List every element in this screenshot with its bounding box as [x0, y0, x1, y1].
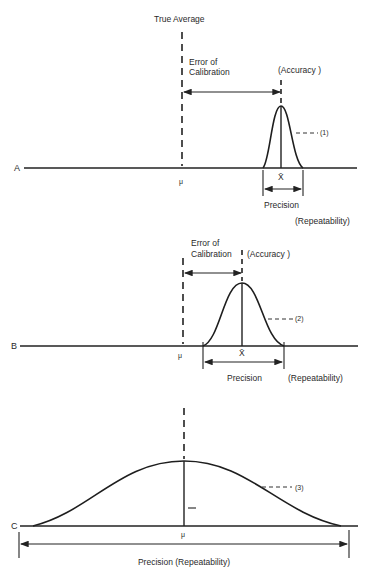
error-of-calibration-label-b-line2: Calibration: [191, 249, 232, 259]
panel-a: Error of Calibration (Accuracy ) (1) A μ…: [14, 32, 357, 226]
error-of-calibration-label-b-line1: Error of: [191, 238, 220, 248]
error-of-calibration-label-a-line1: Error of: [189, 57, 218, 67]
precision-label-a: Precision: [264, 200, 299, 210]
true-average-title: True Average: [154, 14, 205, 24]
accuracy-precision-diagram: True Average Error of Calibration (Accur…: [0, 0, 373, 577]
distribution-curve-1: [263, 106, 303, 168]
error-of-calibration-label-a-line2: Calibration: [189, 67, 230, 77]
mu-label-b: μ: [178, 352, 182, 360]
axis-letter-a: A: [14, 163, 20, 173]
precision-label-b: Precision: [227, 373, 262, 383]
panel-b: Error of Calibration (Accuracy ) (2) B μ…: [11, 238, 358, 383]
distribution-curve-2: [203, 283, 284, 346]
x-bar-label-a: X̄: [278, 172, 284, 182]
curve-2-label: (2): [295, 315, 304, 323]
curve-1-label: (1): [320, 129, 329, 137]
panel-c: (3) C μ Precision (Repeatability): [11, 408, 358, 567]
x-bar-label-b: X̄: [239, 348, 245, 358]
curve-3-label: (3): [295, 484, 304, 492]
repeatability-label-b: (Repeatability): [288, 373, 343, 383]
precision-repeatability-label-c: Precision (Repeatability): [138, 557, 230, 567]
accuracy-label-a: (Accuracy ): [278, 65, 321, 75]
distribution-curve-3: [33, 461, 341, 526]
accuracy-label-b: (Accuracy ): [247, 249, 290, 259]
repeatability-label-a: (Repeatability): [295, 216, 350, 226]
mu-label-c: μ: [181, 531, 185, 539]
axis-letter-c: C: [11, 521, 18, 531]
mu-label-a: μ: [179, 178, 183, 186]
axis-letter-b: B: [11, 341, 17, 351]
